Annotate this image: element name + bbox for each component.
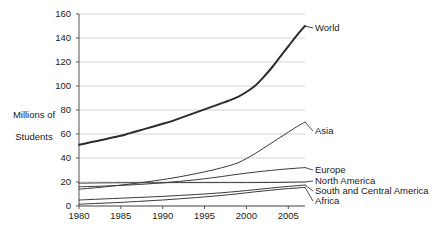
label-leader-lines xyxy=(305,26,313,201)
series-label-asia: Asia xyxy=(315,126,333,136)
x-tick-label: 2000 xyxy=(226,211,266,221)
x-tick-label: 1985 xyxy=(101,211,141,221)
gridlines xyxy=(79,14,305,206)
y-tick-label: 60 xyxy=(45,129,71,139)
y-tick-label: 100 xyxy=(45,81,71,91)
y-tick-label: 0 xyxy=(45,201,71,211)
y-tick-label: 20 xyxy=(45,177,71,187)
tick-marks xyxy=(76,14,288,209)
line-chart: Millions of Students 0204060801001201401… xyxy=(0,0,432,243)
series-label-africa: Africa xyxy=(315,196,339,206)
x-tick-label: 1995 xyxy=(185,211,225,221)
series-label-europe: Europe xyxy=(315,165,346,175)
series-lines xyxy=(79,26,305,204)
y-tick-label: 140 xyxy=(45,33,71,43)
x-tick-label: 1990 xyxy=(143,211,183,221)
series-label-world: World xyxy=(315,23,340,33)
y-tick-label: 40 xyxy=(45,153,71,163)
y-tick-label: 160 xyxy=(45,9,71,19)
y-tick-label: 80 xyxy=(45,105,71,115)
y-tick-label: 120 xyxy=(45,57,71,67)
x-tick-label: 2005 xyxy=(268,211,308,221)
x-tick-label: 1980 xyxy=(59,211,99,221)
